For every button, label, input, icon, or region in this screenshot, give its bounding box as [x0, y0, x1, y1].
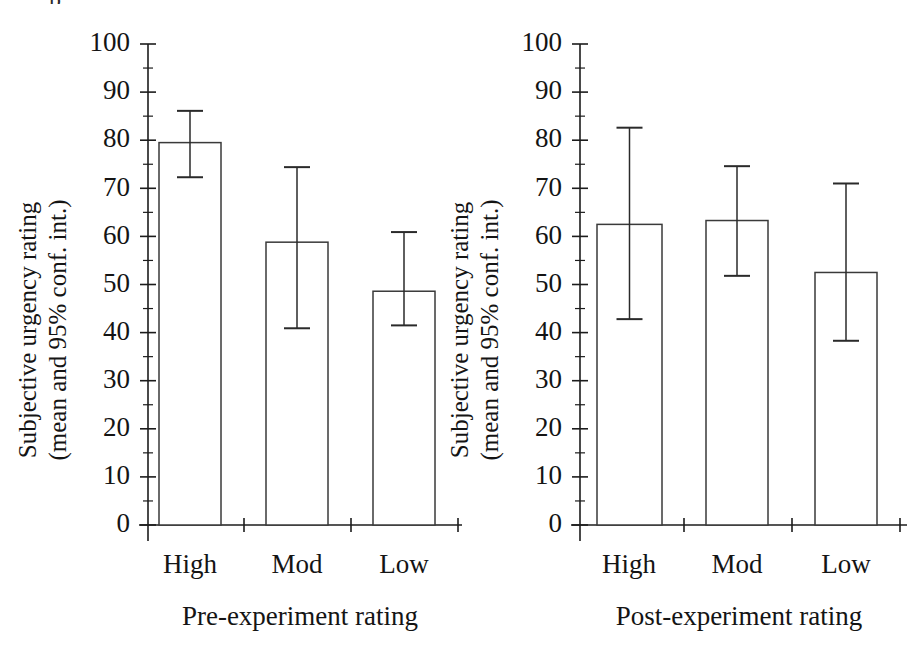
y-axis-title-left: Subjective urgency rating: [14, 201, 41, 458]
category-label-mod: Mod: [271, 549, 323, 579]
y-tick-label: 20: [103, 412, 130, 442]
category-label-low: Low: [379, 549, 429, 579]
category-labels-left: HighModLow: [163, 549, 429, 579]
y-tick-label: 80: [103, 123, 130, 153]
chart-panel-post-experiment: 0102030405060708090100 HighModLow Post-e…: [455, 0, 921, 665]
y-tick-label: 10: [535, 460, 562, 490]
y-tick-label: 100: [522, 27, 563, 57]
y-tick-label: 30: [103, 364, 130, 394]
y-tick-label: 50: [535, 268, 562, 298]
category-label-high: High: [602, 549, 657, 579]
chart-panel-pre-experiment: 0102030405060708090100 HighModLow Pre-ex…: [0, 0, 470, 665]
y-tick-label: 90: [103, 75, 130, 105]
y-tick-label: 0: [117, 508, 131, 538]
y-tick-label: 60: [535, 220, 562, 250]
y-axis-subtitle-left: (mean and 95% conf. int.): [44, 199, 72, 460]
category-labels-right: HighModLow: [602, 549, 871, 579]
y-tick-label: 20: [535, 412, 562, 442]
y-tick-label: 50: [103, 268, 130, 298]
y-tick-label: 70: [103, 172, 130, 202]
category-label-mod: Mod: [711, 549, 763, 579]
y-tick-label: 100: [90, 27, 131, 57]
y-axis-subtitle-right: (mean and 95% conf. int.): [476, 199, 504, 460]
y-tick-marks-right: [572, 44, 588, 525]
y-tick-labels-right: 0102030405060708090100: [522, 27, 563, 538]
y-tick-labels-left: 0102030405060708090100: [90, 27, 131, 538]
y-axis-title-right: Subjective urgency rating: [446, 201, 473, 458]
category-label-low: Low: [821, 549, 871, 579]
y-tick-label: 10: [103, 460, 130, 490]
figure-container: p 0102030405060708090100 HighModLow Pre-…: [0, 0, 921, 665]
bar-high: [159, 143, 221, 525]
y-tick-label: 60: [103, 220, 130, 250]
category-label-high: High: [163, 549, 218, 579]
y-tick-label: 40: [103, 316, 130, 346]
y-tick-label: 30: [535, 364, 562, 394]
y-tick-marks-left: [140, 44, 156, 525]
chart-svg-right: 0102030405060708090100 HighModLow Post-e…: [455, 0, 921, 665]
x-axis-title-right: Post-experiment rating: [616, 601, 863, 631]
y-tick-label: 90: [535, 75, 562, 105]
y-tick-label: 80: [535, 123, 562, 153]
x-axis-title-left: Pre-experiment rating: [182, 601, 418, 631]
chart-svg-left: 0102030405060708090100 HighModLow Pre-ex…: [0, 0, 470, 665]
y-tick-label: 70: [535, 172, 562, 202]
y-tick-label: 40: [535, 316, 562, 346]
y-tick-label: 0: [549, 508, 563, 538]
